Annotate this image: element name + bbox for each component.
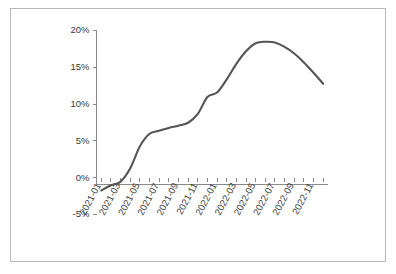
y-tick-label: 5% [76, 135, 90, 146]
y-tick-label: 0% [76, 172, 90, 183]
data-series-line [101, 42, 323, 191]
y-axis-tick-labels: 20%15%10%5%0%-5% [70, 24, 90, 219]
x-axis-tick-labels: 2021-012021-032021-052021-072021-092021-… [77, 181, 315, 217]
line-chart-plot: 20%15%10%5%0%-5% 2021-012021-032021-0520… [0, 0, 396, 274]
y-tick-label: 10% [70, 98, 90, 109]
y-tick-label: 15% [70, 61, 90, 72]
x-axis-ticks [101, 178, 323, 182]
y-tick-label: 20% [70, 24, 90, 35]
chart-figure: 20%15%10%5%0%-5% 2021-012021-032021-0520… [0, 0, 396, 274]
